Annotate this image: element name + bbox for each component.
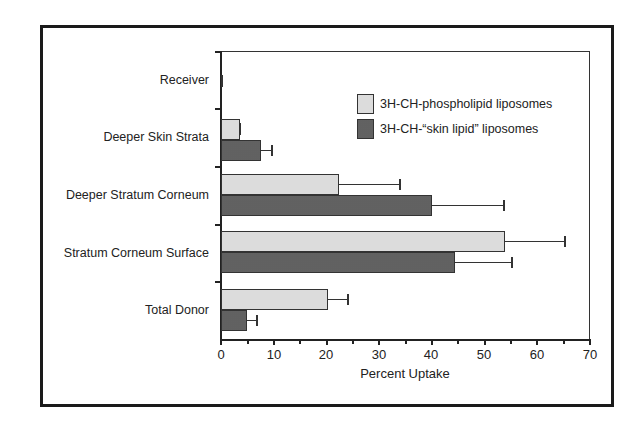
category-label-deeper-skin-strata: Deeper Skin Strata <box>103 130 209 144</box>
x-tick-minor <box>563 339 565 344</box>
legend-label: 3H-CH-phospholipid liposomes <box>380 97 552 111</box>
legend-item-phospholipid: 3H-CH-phospholipid liposomes <box>357 94 552 114</box>
x-tick <box>326 339 328 345</box>
y-tick <box>215 224 221 226</box>
category-label-stratum-corneum-surface: Stratum Corneum Surface <box>64 246 209 260</box>
error-bar <box>505 241 565 242</box>
x-axis-title: Percent Uptake <box>360 366 450 381</box>
error-cap <box>347 294 349 305</box>
category-label-receiver: Receiver <box>160 73 209 87</box>
error-cap <box>239 123 241 135</box>
category-label-deeper-stratum-corneum: Deeper Stratum Corneum <box>66 188 209 202</box>
error-cap <box>511 257 513 268</box>
bar-receiver-skin-lipid <box>221 75 223 87</box>
x-tick-label: 40 <box>424 347 438 362</box>
y-tick <box>215 108 221 110</box>
x-tick-minor <box>457 339 459 344</box>
error-bar <box>432 205 504 206</box>
x-tick-minor <box>299 339 301 344</box>
x-tick <box>431 339 433 345</box>
x-tick <box>589 339 591 345</box>
bar-deeper-skin-strata-skin-lipid <box>221 140 261 161</box>
error-cap <box>256 315 258 326</box>
x-tick-minor <box>510 339 512 344</box>
category-label-total-donor: Total Donor <box>145 303 209 317</box>
x-tick <box>484 339 486 345</box>
x-tick-minor <box>352 339 354 344</box>
bar-deeper-stratum-corneum-phospholipid <box>221 174 339 195</box>
error-bar <box>455 262 512 263</box>
y-tick <box>215 51 221 53</box>
x-tick <box>536 339 538 345</box>
error-cap <box>503 200 505 211</box>
x-tick-label: 60 <box>530 347 544 362</box>
x-tick-minor <box>247 339 249 344</box>
bar-stratum-corneum-surface-skin-lipid <box>221 252 455 273</box>
legend-label: 3H-CH-“skin lipid” liposomes <box>380 122 538 136</box>
x-tick-label: 70 <box>583 347 597 362</box>
x-tick-label: 10 <box>267 347 281 362</box>
error-cap <box>271 145 273 156</box>
legend-item-skin-lipid: 3H-CH-“skin lipid” liposomes <box>357 119 538 139</box>
bar-total-donor-skin-lipid <box>221 310 247 331</box>
error-bar <box>339 184 400 185</box>
x-tick <box>220 339 222 345</box>
y-tick <box>215 166 221 168</box>
bar-stratum-corneum-surface-phospholipid <box>221 231 505 252</box>
x-tick-label: 50 <box>477 347 491 362</box>
error-bar <box>328 299 348 300</box>
error-cap <box>564 236 566 247</box>
bar-total-donor-phospholipid <box>221 289 328 310</box>
bar-deeper-skin-strata-phospholipid <box>221 119 240 140</box>
x-tick-label: 30 <box>372 347 386 362</box>
bar-deeper-stratum-corneum-skin-lipid <box>221 195 432 216</box>
error-cap <box>399 179 401 190</box>
legend-swatch-dark <box>357 119 374 139</box>
x-tick <box>378 339 380 345</box>
x-tick-label: 0 <box>217 347 224 362</box>
y-tick <box>215 281 221 283</box>
x-tick <box>273 339 275 345</box>
legend-swatch-light <box>357 94 374 114</box>
x-tick-minor <box>405 339 407 344</box>
x-tick-label: 20 <box>319 347 333 362</box>
